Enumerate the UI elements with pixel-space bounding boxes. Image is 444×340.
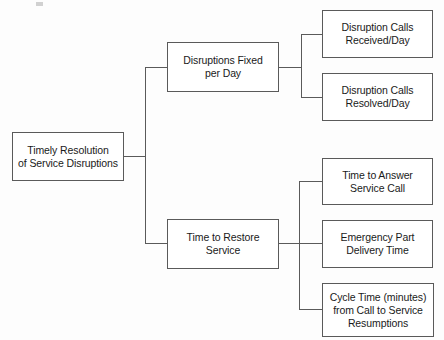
node-leaf-cycle-time-call-to-service-resumptions: Cycle Time (minutes) from Call to Servic…	[322, 283, 434, 337]
node-branch-disruptions-fixed-per-day: Disruptions Fixed per Day	[167, 42, 279, 92]
node-leaf-5-label: Cycle Time (minutes) from Call to Servic…	[330, 291, 427, 330]
node-leaf-1-label: Disruption Calls Received/Day	[342, 21, 414, 47]
node-leaf-time-to-answer-service-call: Time to Answer Service Call	[322, 158, 433, 205]
measures-tree-diagram: Timely Resolution of Service Disruptions…	[0, 0, 444, 340]
node-branch-time-to-restore-service: Time to Restore Service	[167, 219, 279, 269]
node-leaf-disruption-calls-received-per-day: Disruption Calls Received/Day	[322, 10, 433, 58]
node-leaf-emergency-part-delivery-time: Emergency Part Delivery Time	[322, 220, 433, 268]
node-root-timely-resolution: Timely Resolution of Service Disruptions	[12, 132, 124, 181]
node-leaf-4-label: Emergency Part Delivery Time	[341, 231, 415, 257]
node-branch-1-label: Disruptions Fixed per Day	[183, 54, 262, 80]
node-branch-2-label: Time to Restore Service	[187, 231, 260, 257]
node-leaf-disruption-calls-resolved-per-day: Disruption Calls Resolved/Day	[322, 73, 433, 121]
node-leaf-2-label: Disruption Calls Resolved/Day	[342, 84, 414, 110]
node-leaf-3-label: Time to Answer Service Call	[342, 169, 413, 195]
node-root-label: Timely Resolution of Service Disruptions	[18, 144, 118, 170]
